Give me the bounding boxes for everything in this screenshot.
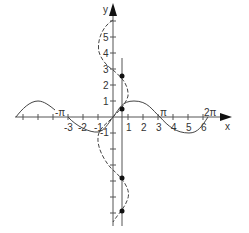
intersection-point bbox=[120, 209, 125, 214]
svg-text:3: 3 bbox=[156, 122, 162, 133]
x-axis-label: x bbox=[225, 121, 230, 132]
intersection-point bbox=[120, 176, 125, 181]
y-axis-arrow-icon bbox=[109, 3, 117, 16]
intersection-point bbox=[120, 74, 125, 79]
svg-text:1: 1 bbox=[126, 122, 132, 133]
svg-text:2: 2 bbox=[103, 80, 109, 91]
x-axis-arrow-icon bbox=[220, 113, 232, 121]
svg-text:-3: -3 bbox=[64, 122, 73, 133]
neg-pi-label: -π bbox=[55, 107, 65, 118]
plot-svg: x y -3 -2 -1 1 2 3 4 5 6 -π π bbox=[0, 0, 249, 233]
intersection-point bbox=[120, 107, 125, 112]
svg-text:3: 3 bbox=[103, 64, 109, 75]
x-tick-labels: -3 -2 -1 1 2 3 4 5 6 -π π 2π bbox=[55, 107, 217, 133]
svg-text:-2: -2 bbox=[78, 122, 87, 133]
y-axis-label: y bbox=[103, 4, 108, 15]
two-pi-label: 2π bbox=[204, 107, 217, 118]
svg-text:4: 4 bbox=[103, 48, 109, 59]
diagram-canvas: x y -3 -2 -1 1 2 3 4 5 6 -π π bbox=[0, 0, 249, 233]
pi-label: π bbox=[160, 107, 167, 118]
svg-text:5: 5 bbox=[186, 122, 192, 133]
svg-text:2: 2 bbox=[141, 122, 147, 133]
svg-text:5: 5 bbox=[103, 32, 109, 43]
svg-text:1: 1 bbox=[103, 96, 109, 107]
